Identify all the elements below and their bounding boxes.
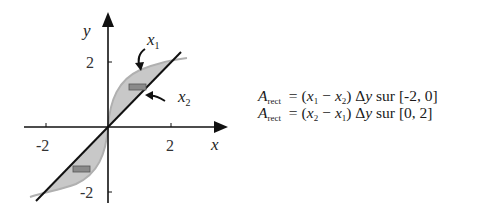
eq-minus: − — [322, 87, 331, 104]
eq-minus: − — [322, 104, 331, 121]
rect-strip-upper — [129, 84, 146, 90]
eq-paren: ) — [346, 104, 351, 121]
eq-interval: sur [-2, 0] — [376, 87, 438, 104]
x-tick-label-neg2: -2 — [36, 137, 49, 154]
area-equations: Arect =(x1−x2) Δy sur [-2, 0] Arect =(x2… — [258, 87, 438, 121]
eq-interval: sur [0, 2] — [376, 104, 432, 121]
eq-term-a: x — [307, 87, 314, 104]
eq-term-a: x — [307, 104, 314, 121]
y-tick-label-2: 2 — [86, 54, 94, 71]
eq-term-a-sub: 2 — [314, 113, 319, 123]
eq-delta: Δ — [355, 104, 365, 121]
eq-term-b: x — [335, 87, 342, 104]
equation-interval-neg: Arect =(x1−x2) Δy sur [-2, 0] — [258, 87, 438, 104]
x-tick-label-2: 2 — [166, 137, 174, 154]
eq-lhs-sub: rect — [267, 113, 281, 123]
x2-pointer-arrowhead-icon — [145, 91, 153, 100]
eq-equals: = — [289, 104, 298, 121]
area-between-curves-figure: y x -2 2 2 -2 x1 x2 — [0, 0, 240, 208]
y-tick-label-neg2: -2 — [80, 184, 93, 201]
equation-interval-pos: Arect =(x2−x1) Δy sur [0, 2] — [258, 104, 438, 121]
eq-equals: = — [289, 87, 298, 104]
eq-paren: ) — [346, 87, 351, 104]
x-axis-label: x — [210, 135, 219, 154]
eq-dy: y — [365, 104, 372, 121]
eq-delta: Δ — [355, 87, 365, 104]
curve-label-x1: x1 — [146, 30, 160, 51]
y-axis-arrow-icon — [102, 12, 114, 27]
rect-strip-lower — [73, 166, 90, 172]
eq-dy: y — [365, 87, 372, 104]
x-axis-arrow-icon — [214, 121, 228, 133]
y-axis-label: y — [81, 21, 91, 40]
curve-label-x2: x2 — [177, 87, 191, 108]
eq-term-b: x — [335, 104, 342, 121]
